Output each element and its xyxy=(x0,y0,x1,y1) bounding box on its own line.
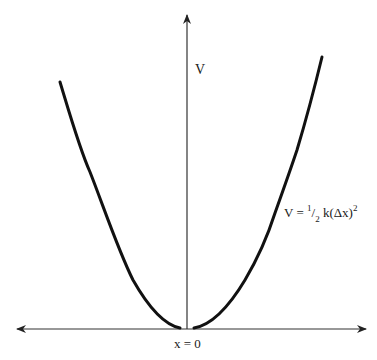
y-axis-label: V xyxy=(195,62,205,78)
equation-label: V = 1/2 k(Δx)2 xyxy=(284,203,357,224)
equation-exponent: 2 xyxy=(353,203,358,213)
potential-curve xyxy=(60,57,322,328)
equation-body: k(Δx) xyxy=(320,205,353,220)
x-origin-label: x = 0 xyxy=(174,336,201,352)
equation-lhs: V = xyxy=(284,205,307,220)
potential-diagram xyxy=(0,0,377,360)
